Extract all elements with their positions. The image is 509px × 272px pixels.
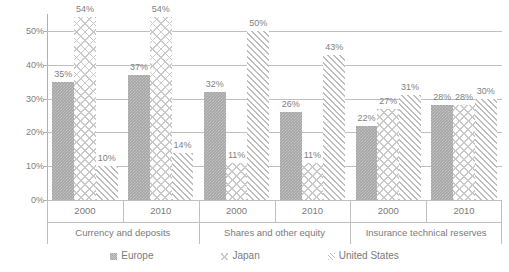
legend-swatch-europe-icon xyxy=(110,253,117,260)
bar-europe[interactable] xyxy=(431,105,453,200)
legend-swatch-japan-icon xyxy=(221,253,228,260)
bar-japan[interactable] xyxy=(302,163,324,200)
bar-value-label: 26% xyxy=(274,100,308,109)
legend-label: Europe xyxy=(121,251,153,261)
bar-europe[interactable] xyxy=(128,75,150,200)
bar-us[interactable] xyxy=(399,95,421,200)
y-tick-label: 0% xyxy=(4,196,44,205)
bar-value-label: 54% xyxy=(144,5,178,14)
group-separator xyxy=(199,200,200,244)
bar-value-label: 14% xyxy=(166,141,200,150)
legend-label: Japan xyxy=(232,251,259,261)
bar-value-label: 54% xyxy=(68,5,102,14)
legend-label: United States xyxy=(339,251,399,261)
y-tick-label: 10% xyxy=(4,162,44,171)
x-axis-year-label: 2000 xyxy=(199,204,275,218)
x-axis-year-label: 2000 xyxy=(350,204,426,218)
y-axis-labels: 0%10%20%30%40%50% xyxy=(0,14,44,200)
legend-item-us[interactable]: United States xyxy=(328,251,399,261)
bar-us[interactable] xyxy=(247,31,269,200)
group-separator xyxy=(350,200,351,244)
bar-value-label: 31% xyxy=(393,83,427,92)
category-axis-line-mid xyxy=(47,222,502,223)
x-axis-year-label: 2000 xyxy=(47,204,123,218)
bar-value-label: 10% xyxy=(90,154,124,163)
bar-us[interactable] xyxy=(96,166,118,200)
group-separator xyxy=(501,200,502,244)
bars-layer: 35%54%10%37%54%14%32%11%50%26%11%43%22%2… xyxy=(47,14,502,200)
bar-europe[interactable] xyxy=(356,126,378,200)
bar-europe[interactable] xyxy=(204,92,226,200)
year-separator xyxy=(426,200,427,222)
bar-value-label: 43% xyxy=(317,43,351,52)
bar-japan[interactable] xyxy=(226,163,248,200)
y-tick-label: 40% xyxy=(4,61,44,70)
legend: EuropeJapanUnited States xyxy=(0,248,509,264)
bar-value-label: 50% xyxy=(241,19,275,28)
bar-japan[interactable] xyxy=(377,109,399,200)
bar-japan[interactable] xyxy=(74,17,96,200)
legend-item-japan[interactable]: Japan xyxy=(221,251,259,261)
bar-japan[interactable] xyxy=(453,105,475,200)
category-axis: 200020102000201020002010Currency and dep… xyxy=(47,200,502,244)
bar-chart: 0%10%20%30%40%50% 35%54%10%37%54%14%32%1… xyxy=(0,0,509,272)
bar-value-label: 32% xyxy=(198,80,232,89)
bar-japan[interactable] xyxy=(150,17,172,200)
legend-swatch-us-icon xyxy=(328,253,335,260)
bar-us[interactable] xyxy=(172,153,194,200)
x-axis-year-label: 2010 xyxy=(275,204,351,218)
group-separator xyxy=(47,200,48,244)
y-tick-label: 50% xyxy=(4,27,44,36)
bar-us[interactable] xyxy=(323,55,345,200)
x-axis-year-label: 2010 xyxy=(426,204,502,218)
x-axis-group-label: Insurance technical reserves xyxy=(350,226,502,240)
x-axis-group-label: Shares and other equity xyxy=(199,226,351,240)
x-axis-group-label: Currency and deposits xyxy=(47,226,199,240)
bar-value-label: 30% xyxy=(469,87,503,96)
year-separator xyxy=(123,200,124,222)
legend-item-europe[interactable]: Europe xyxy=(110,251,153,261)
bar-europe[interactable] xyxy=(52,82,74,200)
y-tick-label: 20% xyxy=(4,128,44,137)
plot-area: 35%54%10%37%54%14%32%11%50%26%11%43%22%2… xyxy=(47,14,502,200)
year-separator xyxy=(275,200,276,222)
bar-us[interactable] xyxy=(475,99,497,200)
x-axis-year-label: 2010 xyxy=(123,204,199,218)
y-tick-label: 30% xyxy=(4,95,44,104)
